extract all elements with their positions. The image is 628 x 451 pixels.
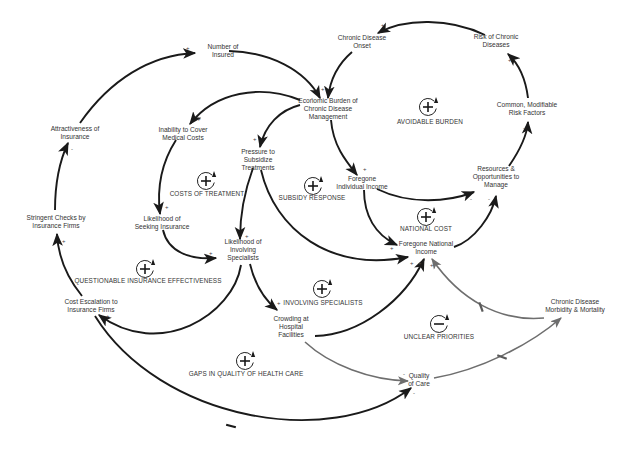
node-label-line: Onset (353, 42, 371, 49)
reinforcing-loop-icon (136, 259, 155, 277)
balancing-loop-icon (430, 314, 449, 332)
node-stringent-checks: Stringent Checks byInsurance Firms (26, 214, 86, 229)
node-likelihood-specialists: Likelihood ofInvolvingSpecialists (224, 238, 261, 262)
edge-crowding-to-foregone-national: + (315, 259, 424, 336)
edge-arrow (509, 122, 528, 166)
edge-pressure-subsidize-to-likelihood-specialists: + (240, 168, 253, 239)
reinforcing-loop-icon (304, 176, 323, 194)
node-attractiveness: Attractiveness ofInsurance (51, 125, 100, 140)
node-label-line: Cost Escalation to (64, 298, 117, 305)
loop-avoidable-burden: AVOIDABLE BURDEN (397, 97, 463, 125)
node-label-line: Risk Factors (509, 109, 546, 116)
edge-stringent-checks-to-attractiveness: - (55, 143, 73, 210)
edge-attractiveness-to-number-insured: + (80, 45, 195, 123)
edge-arrow (331, 120, 357, 175)
edge-polarity: - (403, 371, 405, 377)
edge-polarity: - (71, 146, 73, 152)
edge-arrow (260, 105, 300, 147)
edge-arrow (80, 53, 195, 123)
edge-likelihood-insurance-to-likelihood-specialists: + (163, 230, 216, 258)
reinforcing-loop-icon (419, 97, 438, 115)
edge-polarity: + (410, 260, 414, 266)
edge-polarity: - (551, 318, 553, 324)
edge-polarity: + (197, 116, 201, 122)
node-label-line: Foregone (348, 175, 377, 183)
node-label-line: Crowding at (273, 315, 308, 323)
edge-risk-chronic-to-chronic-onset: + (378, 22, 485, 35)
edge-arrow (328, 52, 352, 98)
causal-loop-diagram: -++++-+++-+-+++++++-+-+-- AVOIDABLE BURD… (0, 0, 628, 451)
edge-polarity: + (321, 86, 325, 92)
edge-polarity: + (62, 238, 66, 244)
edge-arrow (434, 318, 561, 378)
node-label-line: Risk of Chronic (474, 33, 519, 40)
node-label-line: Likelihood of (224, 238, 261, 245)
edge-arrow (240, 168, 253, 239)
node-label-line: Insured (212, 51, 234, 58)
loop-costs-treatment: COSTS OF TREATMENT (170, 171, 245, 197)
edge-arrow (190, 92, 300, 124)
node-label-line: Quality (409, 372, 430, 380)
node-label-line: Opportunities to (473, 173, 520, 181)
node-label-line: Number of (208, 43, 239, 50)
edge-economic-burden-to-pressure-subsidize: + (253, 105, 300, 147)
node-pressure-subsidize: Pressure toSubsidizeTreatments (241, 148, 275, 171)
edge-arrow (315, 259, 424, 336)
node-label-line: Morbidity & Mortality (545, 306, 605, 314)
loop-national-cost: NATIONAL COST (400, 207, 452, 232)
node-label-line: Involving (230, 246, 256, 254)
node-label-line: Foregone National (399, 240, 454, 248)
edge-polarity: + (106, 313, 110, 319)
diagram-canvas: -++++-+++-+-+++++++-+-+-- AVOIDABLE BURD… (0, 0, 628, 451)
node-label-line: Hospital (279, 323, 303, 331)
node-label-line: Stringent Checks by (26, 214, 86, 222)
edge-polarity: + (209, 250, 213, 256)
node-label-line: Facilities (278, 331, 304, 338)
node-likelihood-insurance: Likelihood ofSeeking Insurance (135, 215, 190, 231)
node-label-line: Insurance Firms (67, 306, 115, 313)
node-label-line: Common, Modifiable (497, 101, 558, 108)
edge-morbidity-to-foregone-national: + (430, 259, 544, 318)
edge-economic-burden-to-inability-cover: + (190, 92, 300, 124)
node-foregone-individual: ForegoneIndividual Income (336, 175, 388, 190)
loop-label: GAPS IN QUALITY OF HEALTH CARE (189, 370, 304, 378)
edge-polarity: + (363, 166, 367, 172)
loops-layer: AVOIDABLE BURDENCOSTS OF TREATMENTSUBSID… (74, 97, 474, 378)
node-label-line: Medical Costs (162, 134, 204, 141)
edge-crowding-to-quality-care: - (305, 342, 408, 381)
node-label-line: Insurance (61, 133, 90, 140)
node-foregone-national: Foregone NationalIncome (399, 240, 454, 255)
edge-common-risk-to-risk-chronic: + (508, 54, 528, 98)
delay-mark (226, 425, 236, 428)
loop-label: NATIONAL COST (400, 225, 452, 232)
edge-polarity: - (413, 390, 415, 396)
edge-polarity: + (165, 204, 169, 210)
node-label-line: Resources & (477, 165, 515, 172)
edge-polarity: + (186, 45, 190, 51)
node-morbidity: Chronic DiseaseMorbidity & Mortality (545, 298, 605, 314)
node-chronic-onset: Chronic DiseaseOnset (338, 34, 387, 49)
node-label-line: Economic Burden of (298, 97, 358, 104)
loop-unclear-priorities: UNCLEAR PRIORITIES (404, 314, 474, 340)
loop-label: SUBSIDY RESPONSE (279, 194, 346, 201)
node-quality-care: Qualityof Care (408, 372, 430, 387)
node-label-line: Treatments (241, 164, 275, 171)
loop-label: INVOLVING SPECIALISTS (283, 299, 362, 306)
edge-foregone-individual-to-resources-manage: - (377, 189, 474, 202)
edge-polarity: + (418, 260, 422, 266)
edge-foregone-individual-to-foregone-national: + (364, 190, 397, 251)
node-label-line: Attractiveness of (51, 125, 100, 132)
node-label-line: Likelihood of (143, 215, 180, 222)
edge-polarity: + (253, 136, 257, 142)
edge-polarity: + (381, 22, 385, 28)
node-economic-burden: Economic Burden ofChronic DiseaseManagem… (298, 97, 358, 121)
loop-questionable-insurance: QUESTIONABLE INSURANCE EFFECTIVENESS (74, 259, 221, 285)
edge-cost-escalation-to-stringent-checks: + (57, 234, 82, 296)
reinforcing-loop-icon (197, 171, 216, 189)
edge-quality-care-to-morbidity: - (434, 318, 561, 378)
node-number-insured: Number ofInsured (208, 43, 239, 58)
edge-polarity: + (508, 57, 512, 63)
edge-arrow (55, 143, 68, 210)
edge-economic-burden-to-foregone-individual: + (331, 120, 367, 175)
node-label-line: Specialists (227, 254, 259, 262)
